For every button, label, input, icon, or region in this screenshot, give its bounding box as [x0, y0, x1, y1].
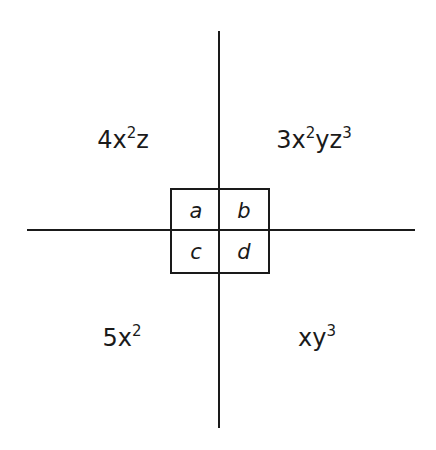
- term-exponent: 2: [132, 322, 142, 340]
- term-text: z: [136, 126, 149, 154]
- center-cell-c: c: [172, 231, 220, 272]
- term-text: 3x: [276, 126, 305, 154]
- term-exponent: 2: [127, 124, 137, 142]
- center-cell-a: a: [172, 190, 220, 231]
- term-exponent: 3: [342, 124, 352, 142]
- term-bottom-right: xy3: [298, 326, 336, 350]
- term-text: 4x: [97, 126, 126, 154]
- term-text: xy: [298, 324, 326, 352]
- term-top-left: 4x2z: [97, 128, 149, 152]
- term-exponent: 3: [326, 322, 336, 340]
- term-text: yz: [315, 126, 342, 154]
- term-bottom-left: 5x2: [102, 326, 141, 350]
- term-exponent: 2: [306, 124, 316, 142]
- center-cell-d: d: [220, 231, 268, 272]
- term-text: 5x: [102, 324, 131, 352]
- center-cell-b: b: [220, 190, 268, 231]
- term-top-right: 3x2yz3: [276, 128, 351, 152]
